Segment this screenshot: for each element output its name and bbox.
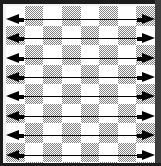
- checker-cell: [136, 84, 155, 104]
- checker-cell: [136, 143, 155, 163]
- checker-cell: [25, 123, 44, 143]
- checker-cell: [136, 6, 155, 26]
- frame-left-band: [0, 0, 3, 166]
- checker-cell: [43, 123, 62, 143]
- checker-cell: [99, 123, 118, 143]
- checker-cell: [99, 65, 118, 85]
- checker-cell: [62, 65, 81, 85]
- checker-cell: [136, 104, 155, 124]
- checker-cell: [118, 65, 137, 85]
- checker-cell: [62, 143, 81, 163]
- checker-cell: [6, 104, 25, 124]
- checker-cell: [99, 104, 118, 124]
- checker-cell: [25, 45, 44, 65]
- figure-root: [0, 0, 161, 166]
- checker-cell: [43, 26, 62, 46]
- checker-cell: [43, 65, 62, 85]
- checker-cell: [118, 123, 137, 143]
- checker-cell: [6, 45, 25, 65]
- checker-cell: [81, 104, 100, 124]
- checker-cell: [99, 45, 118, 65]
- checker-cell: [25, 84, 44, 104]
- checker-cell: [81, 123, 100, 143]
- checker-cell: [43, 143, 62, 163]
- checker-cell: [99, 84, 118, 104]
- checker-cell: [118, 143, 137, 163]
- checker-cell: [62, 123, 81, 143]
- checker-cell: [25, 143, 44, 163]
- checker-cell: [99, 143, 118, 163]
- checker-cell: [62, 84, 81, 104]
- checker-cell: [118, 84, 137, 104]
- checker-cell: [81, 65, 100, 85]
- checker-cell: [62, 45, 81, 65]
- checker-cell: [118, 104, 137, 124]
- checker-cell: [62, 6, 81, 26]
- checker-cell: [136, 123, 155, 143]
- checker-cell: [43, 84, 62, 104]
- checker-cell: [62, 104, 81, 124]
- checker-cell: [6, 26, 25, 46]
- checkerboard-plot-area: [6, 6, 155, 166]
- frame-right-band: [155, 0, 161, 166]
- checker-cell: [81, 26, 100, 46]
- checker-cell: [25, 104, 44, 124]
- checkerboard-grid: [6, 6, 155, 166]
- checker-cell: [81, 45, 100, 65]
- checker-cell: [136, 65, 155, 85]
- checker-cell: [81, 6, 100, 26]
- checker-cell: [81, 143, 100, 163]
- checker-cell: [25, 65, 44, 85]
- checker-cell: [6, 84, 25, 104]
- checker-cell: [6, 143, 25, 163]
- checker-cell: [43, 6, 62, 26]
- frame-top-band: [0, 0, 161, 4]
- checker-cell: [136, 26, 155, 46]
- checker-cell: [99, 26, 118, 46]
- checker-cell: [81, 84, 100, 104]
- checker-cell: [6, 65, 25, 85]
- checker-cell: [62, 26, 81, 46]
- frame-bottom-band: [0, 163, 161, 166]
- checker-cell: [25, 6, 44, 26]
- checker-cell: [118, 45, 137, 65]
- checker-cell: [25, 26, 44, 46]
- checker-cell: [6, 123, 25, 143]
- checker-cell: [6, 6, 25, 26]
- checker-cell: [136, 45, 155, 65]
- checker-cell: [99, 6, 118, 26]
- checker-cell: [43, 45, 62, 65]
- checker-cell: [43, 104, 62, 124]
- checker-cell: [118, 26, 137, 46]
- checker-cell: [118, 6, 137, 26]
